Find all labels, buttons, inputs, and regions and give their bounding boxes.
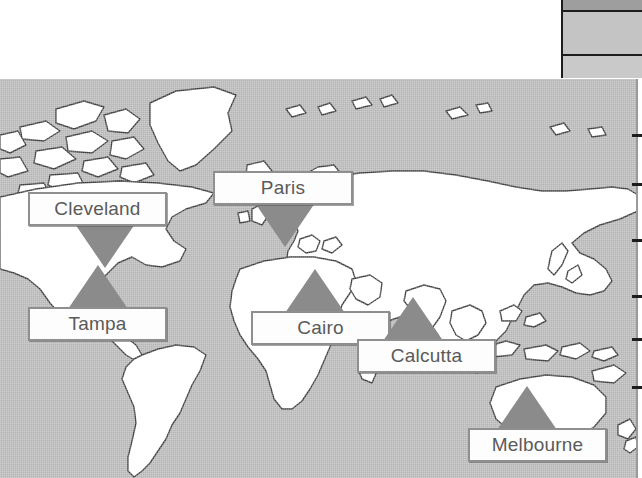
city-label-text: Tampa [68,313,126,335]
map-callout-calcutta[interactable]: Calcutta [357,339,496,373]
spreadsheet-header-row[interactable] [563,0,642,12]
city-label-text: Melbourne [492,434,584,456]
city-label-text: Cleveland [54,198,140,220]
map-pointer-paris [255,203,315,247]
city-label-box[interactable]: Cleveland [28,192,167,226]
edge-tick [632,338,642,341]
spreadsheet-row[interactable] [563,56,642,78]
edge-tick [632,386,642,389]
map-pointer-calcutta [383,297,443,341]
map-pointer-cairo [285,269,345,313]
city-label-box[interactable]: Paris [213,171,353,205]
edge-tick [632,295,642,298]
edge-tick [632,134,642,137]
spreadsheet-panel[interactable] [561,0,642,78]
city-label-text: Paris [261,177,305,199]
map-pointer-tampa [68,265,128,309]
edge-tick [632,239,642,242]
map-pointer-cleveland [75,224,135,268]
city-label-text: Cairo [297,317,343,339]
map-callout-tampa[interactable]: Tampa [28,307,167,341]
map-callout-cleveland[interactable]: Cleveland [28,192,167,226]
city-label-text: Calcutta [391,345,462,367]
map-pointer-melbourne [497,386,557,430]
city-label-box[interactable]: Melbourne [468,428,607,462]
map-callout-paris[interactable]: Paris [213,171,353,205]
city-label-box[interactable]: Tampa [28,307,167,341]
spreadsheet-row[interactable] [563,12,642,56]
map-right-border [636,79,638,478]
edge-tick [632,183,642,186]
screenshot-root: Cleveland Paris Tampa Cairo Calcutta Mel… [0,0,642,478]
map-callout-melbourne[interactable]: Melbourne [468,428,607,462]
city-label-box[interactable]: Calcutta [357,339,496,373]
